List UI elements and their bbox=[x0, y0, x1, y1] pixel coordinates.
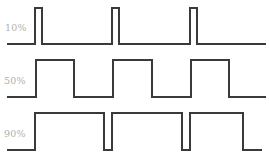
waveform-trace-10 bbox=[7, 8, 266, 44]
waveform-row-10: 10% bbox=[5, 8, 266, 44]
waveform-row-50: 50% bbox=[4, 60, 266, 97]
pwm-waveform-figure: 10% 50% 90% bbox=[0, 0, 269, 163]
waveform-row-90: 90% bbox=[4, 113, 262, 150]
duty-label-10: 10% bbox=[5, 22, 27, 33]
waveform-trace-50 bbox=[7, 60, 266, 97]
duty-label-90: 90% bbox=[4, 128, 26, 139]
duty-label-50: 50% bbox=[4, 75, 26, 86]
waveform-trace-90 bbox=[7, 113, 262, 150]
waveform-canvas: 10% 50% 90% bbox=[0, 0, 269, 163]
